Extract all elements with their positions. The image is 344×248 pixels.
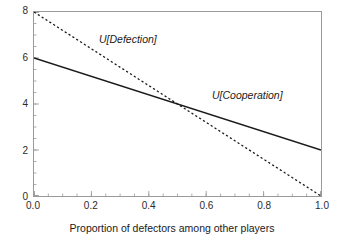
data-series-lines <box>34 12 321 196</box>
plot-area <box>33 11 322 197</box>
x-axis-title: Proportion of defectors among other play… <box>0 222 344 234</box>
x-tick-label: 0.2 <box>71 201 111 211</box>
x-tick-label: 1.0 <box>302 201 342 211</box>
x-tick-label: 0.6 <box>186 201 226 211</box>
y-axis-major-ticks <box>34 12 39 195</box>
plot-svg <box>34 12 321 196</box>
x-tick-label: 0.4 <box>129 201 169 211</box>
series-line-1 <box>34 58 321 150</box>
y-tick-label: 2 <box>6 146 28 156</box>
y-tick-label: 4 <box>6 99 28 109</box>
series-label-cooperation: U[Cooperation] <box>212 89 283 101</box>
y-tick-label: 6 <box>6 53 28 63</box>
y-tick-label: 8 <box>6 6 28 16</box>
series-label-defection: U[Defection] <box>99 33 157 45</box>
x-tick-label: 0.8 <box>244 201 284 211</box>
x-axis-minor-ticks <box>34 194 320 196</box>
x-tick-label: 0.0 <box>13 201 53 211</box>
chart-figure: 02468 0.00.20.40.60.81.0 U[Defection] U[… <box>0 0 344 248</box>
